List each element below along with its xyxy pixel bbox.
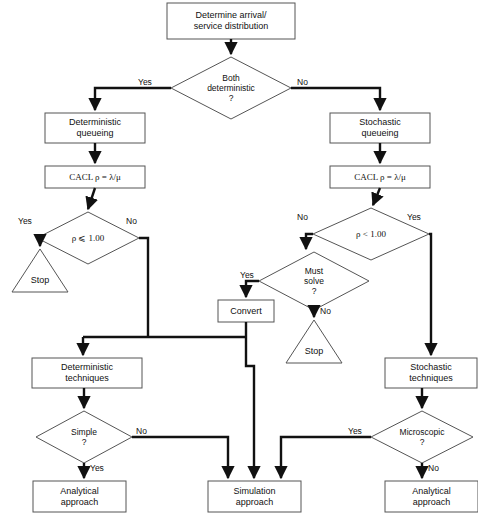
microscopic-shape (371, 411, 473, 463)
edge-rholt-yes (429, 234, 431, 355)
edge-label-mustsolve-yes: Yes (240, 270, 254, 280)
both-deterministic-shape (171, 57, 291, 119)
edge-rhole-no (139, 238, 148, 337)
must-solve-shape (259, 252, 369, 310)
edge-label-rholt-yes: Yes (407, 212, 421, 222)
edge-label-simple-yes: Yes (90, 463, 104, 473)
flowchart-canvas: Determine arrival/ service distribution … (0, 0, 478, 517)
stop-left-shape (12, 249, 68, 292)
edge-convert-to-simulation (246, 322, 254, 478)
flowchart-graphics (0, 0, 478, 517)
edge-both-no (291, 88, 380, 110)
edge-label-simple-no: No (136, 426, 147, 436)
edge-label-micro-yes: Yes (348, 426, 362, 436)
edge-label-rhole-yes: Yes (18, 216, 32, 226)
edge-label-both-no: No (297, 77, 308, 87)
edge-rholt-no (306, 234, 313, 249)
start-box-shape (167, 3, 295, 39)
stop-middle-shape (286, 320, 342, 363)
edge-label-micro-no: No (428, 463, 439, 473)
edge-mustsolve-yes-convert (246, 281, 259, 297)
deterministic-techniques-shape (32, 358, 142, 388)
simulation-shape (208, 481, 301, 512)
edge-label-mustsolve-no: No (320, 306, 331, 316)
edge-label-rholt-no: No (297, 212, 308, 222)
calc-rho-right-shape (330, 166, 430, 188)
edge-calc-to-rholt (373, 188, 380, 205)
calc-rho-left-shape (45, 166, 145, 188)
rho-le-one-shape (37, 212, 139, 264)
stochastic-techniques-shape (385, 358, 477, 388)
analytical-left-shape (33, 481, 126, 512)
edge-rhole-yes-stop (37, 238, 40, 246)
edge-both-yes (95, 88, 171, 110)
edge-label-both-yes: Yes (138, 77, 152, 87)
convert-shape (218, 300, 274, 322)
simple-shape (36, 411, 132, 463)
edge-label-rhole-no: No (126, 216, 137, 226)
edge-simple-no (132, 437, 228, 478)
edge-micro-yes (281, 437, 371, 478)
stochastic-queueing-shape (330, 113, 430, 143)
analytical-right-shape (385, 481, 478, 512)
deterministic-queueing-shape (45, 113, 145, 143)
edge-calc-to-rhole (88, 188, 95, 209)
